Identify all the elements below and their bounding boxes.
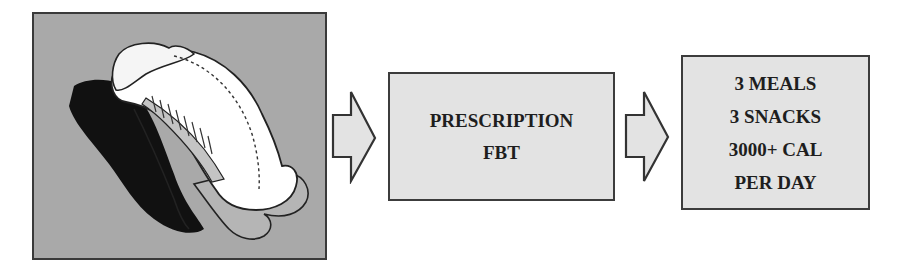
box-line: PRESCRIPTION bbox=[430, 105, 574, 137]
box-line: PER DAY bbox=[734, 166, 816, 199]
right-arrow-icon bbox=[624, 90, 672, 184]
curled-figure-illustration bbox=[32, 12, 327, 260]
box-line: FBT bbox=[483, 137, 520, 169]
meal-plan-box: 3 MEALS 3 SNACKS 3000+ CAL PER DAY bbox=[681, 55, 870, 210]
prescription-fbt-box: PRESCRIPTION FBT bbox=[388, 72, 615, 201]
box-line: 3 SNACKS bbox=[730, 100, 821, 133]
box-line: 3000+ CAL bbox=[729, 133, 823, 166]
curled-figure-icon bbox=[34, 14, 325, 258]
right-arrow-icon bbox=[331, 90, 379, 184]
box-line: 3 MEALS bbox=[735, 67, 817, 100]
